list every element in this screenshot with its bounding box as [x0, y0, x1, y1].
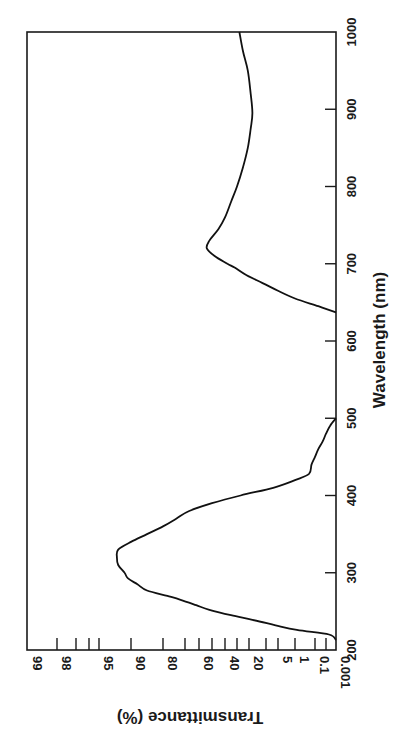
wavelength-axis-title: Wavelength (nm): [370, 272, 389, 408]
tick-label: 200: [344, 639, 359, 661]
tick-label: 98: [59, 656, 74, 670]
plot-frame: [27, 32, 336, 650]
wavelength-axis-ticks: [325, 109, 336, 573]
tick-label: 80: [165, 656, 180, 670]
transmittance-chart: 9998959080604020510.10.001 2003004005006…: [0, 0, 398, 741]
tick-label: 300: [344, 562, 359, 584]
transmittance-axis-ticks: [57, 638, 326, 650]
tick-label: 600: [344, 330, 359, 352]
tick-label: 90: [133, 656, 148, 670]
tick-label: 1000: [344, 18, 359, 47]
wavelength-axis-tick-labels: 2003004005006007008009001000: [344, 18, 359, 661]
tick-label: 700: [344, 253, 359, 275]
tick-label: 5: [280, 656, 295, 663]
tick-label: 40: [227, 656, 242, 670]
tick-label: 60: [201, 656, 216, 670]
tick-label: 500: [344, 407, 359, 429]
tick-label: 400: [344, 485, 359, 507]
curve-segment: [117, 418, 336, 640]
curve-segment: [207, 32, 336, 312]
tick-label: 20: [251, 656, 266, 670]
tick-label: 95: [101, 656, 116, 670]
tick-label: 900: [344, 98, 359, 120]
transmittance-curve: [117, 32, 336, 640]
tick-label: 1: [297, 656, 312, 663]
transmittance-axis-tick-labels: 9998959080604020510.10.001: [30, 656, 353, 689]
transmittance-axis-title: Transmittance (%): [117, 708, 263, 727]
tick-label: 99: [30, 656, 45, 670]
tick-label: 0.1: [317, 656, 332, 674]
tick-label: 800: [344, 176, 359, 198]
